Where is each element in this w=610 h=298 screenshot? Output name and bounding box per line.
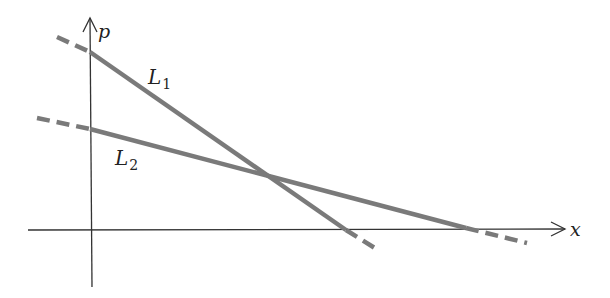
l2-dashed-end <box>466 228 527 243</box>
y-axis-label: p <box>98 20 110 42</box>
x-axis-label: x <box>570 218 581 240</box>
lines: L1L2 <box>37 37 527 250</box>
axes: x p <box>28 18 581 287</box>
y-axis <box>90 18 92 287</box>
l2-label: L2 <box>114 146 138 173</box>
l2-dashed-start <box>37 118 90 129</box>
line-l1: L1 <box>57 37 378 250</box>
x-axis <box>28 229 565 230</box>
l2-solid <box>90 129 466 228</box>
l2-label-subscript: 2 <box>129 157 138 173</box>
l1-label: L1 <box>147 65 171 92</box>
l1-dashed-start <box>57 37 90 52</box>
l1-dashed-end <box>346 230 378 250</box>
line-l2: L2 <box>37 118 527 243</box>
supply-demand-diagram: x p L1L2 <box>0 0 610 298</box>
l1-label-subscript: 1 <box>162 76 171 92</box>
